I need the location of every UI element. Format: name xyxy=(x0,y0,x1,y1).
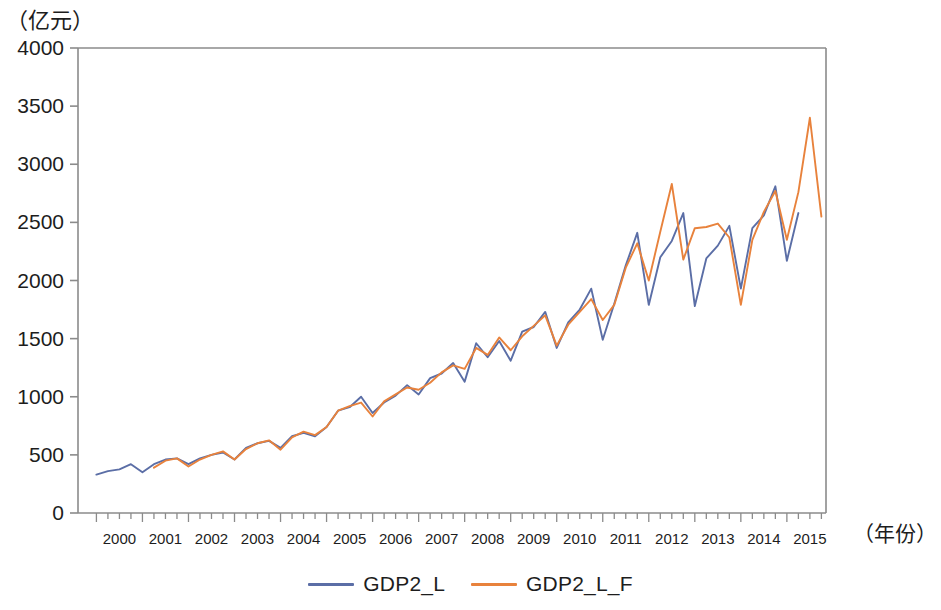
legend-swatch-gdp2-l xyxy=(308,583,354,586)
svg-text:4000: 4000 xyxy=(17,36,64,59)
svg-text:0: 0 xyxy=(52,501,64,524)
chart-legend: GDP2_L GDP2_L_F xyxy=(0,572,941,596)
legend-swatch-gdp2-l-f xyxy=(471,583,517,586)
svg-text:2008: 2008 xyxy=(471,530,504,547)
legend-label-gdp2-l: GDP2_L xyxy=(363,572,445,596)
svg-text:2001: 2001 xyxy=(149,530,182,547)
plot-area: 0500100015002000250030003500400020002001… xyxy=(0,0,941,610)
chart-figure: （亿元） （年份） 050010001500200025003000350040… xyxy=(0,0,941,610)
svg-text:2010: 2010 xyxy=(563,530,596,547)
svg-text:2000: 2000 xyxy=(17,269,64,292)
svg-text:1500: 1500 xyxy=(17,327,64,350)
legend-item-gdp2-l-f: GDP2_L_F xyxy=(471,572,633,596)
svg-text:2002: 2002 xyxy=(195,530,228,547)
svg-text:2012: 2012 xyxy=(655,530,688,547)
svg-text:1000: 1000 xyxy=(17,385,64,408)
svg-text:2013: 2013 xyxy=(701,530,734,547)
svg-text:500: 500 xyxy=(29,443,64,466)
svg-text:2009: 2009 xyxy=(517,530,550,547)
svg-text:2015: 2015 xyxy=(793,530,826,547)
svg-text:2000: 2000 xyxy=(103,530,136,547)
line-chart-svg: 0500100015002000250030003500400020002001… xyxy=(0,0,941,610)
svg-text:2014: 2014 xyxy=(747,530,780,547)
svg-text:2011: 2011 xyxy=(610,530,642,547)
svg-text:2005: 2005 xyxy=(333,530,366,547)
svg-text:2003: 2003 xyxy=(241,530,274,547)
svg-text:2006: 2006 xyxy=(379,530,412,547)
svg-text:3000: 3000 xyxy=(17,152,64,175)
svg-text:3500: 3500 xyxy=(17,94,64,117)
svg-text:2500: 2500 xyxy=(17,210,64,233)
legend-item-gdp2-l: GDP2_L xyxy=(308,572,445,596)
legend-label-gdp2-l-f: GDP2_L_F xyxy=(526,572,633,596)
svg-text:2007: 2007 xyxy=(425,530,458,547)
svg-text:2004: 2004 xyxy=(287,530,320,547)
